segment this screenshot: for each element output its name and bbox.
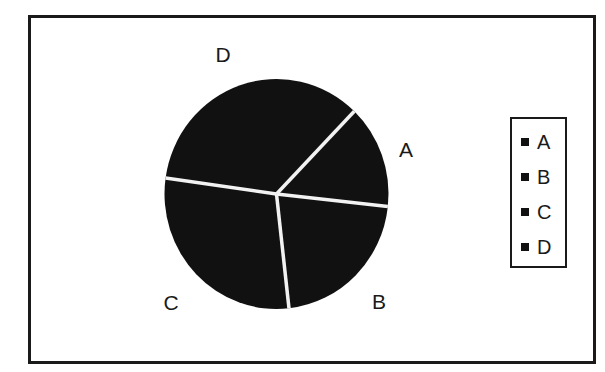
legend-marker-icon	[521, 243, 529, 251]
legend-marker-icon	[521, 138, 529, 146]
slice-label-d: D	[215, 43, 230, 66]
legend-marker-icon	[521, 173, 529, 181]
legend-item-b: B	[512, 159, 565, 194]
slice-label-a: A	[399, 138, 413, 161]
legend-item-c: C	[512, 194, 565, 229]
legend-label: C	[537, 202, 551, 222]
pie-slice-c	[165, 178, 289, 309]
legend-label: B	[537, 167, 550, 187]
legend-marker-icon	[521, 208, 529, 216]
legend-item-a: A	[512, 124, 565, 159]
legend: A B C D	[510, 117, 567, 268]
legend-label: A	[537, 132, 550, 152]
slice-label-c: C	[163, 291, 178, 314]
slice-label-b: B	[372, 290, 386, 313]
legend-item-d: D	[512, 229, 565, 264]
legend-label: D	[537, 237, 551, 257]
